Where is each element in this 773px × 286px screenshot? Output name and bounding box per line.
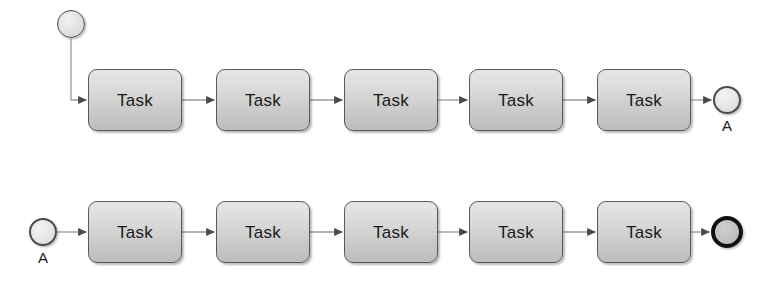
flow-start-to-task1 — [71, 39, 87, 100]
task-row1-4[interactable]: Task — [469, 69, 563, 131]
task-label: Task — [498, 224, 534, 241]
task-label: Task — [498, 92, 534, 109]
link-catch-event-a-label: A — [23, 250, 63, 265]
task-row1-5[interactable]: Task — [597, 69, 691, 131]
task-row2-1[interactable]: Task — [88, 201, 182, 263]
end-event[interactable] — [711, 216, 743, 248]
start-event[interactable] — [57, 10, 85, 38]
task-label: Task — [626, 224, 662, 241]
task-row2-2[interactable]: Task — [216, 201, 310, 263]
task-row1-3[interactable]: Task — [344, 69, 438, 131]
task-row2-3[interactable]: Task — [344, 201, 438, 263]
link-throw-event-a-label: A — [707, 118, 747, 133]
task-row2-4[interactable]: Task — [469, 201, 563, 263]
task-row1-1[interactable]: Task — [88, 69, 182, 131]
task-row2-5[interactable]: Task — [597, 201, 691, 263]
bpmn-diagram-canvas: Task Task Task Task Task A A Task Task T… — [0, 0, 773, 286]
link-throw-event-a[interactable] — [713, 86, 741, 114]
task-label: Task — [373, 92, 409, 109]
task-label: Task — [245, 92, 281, 109]
task-label: Task — [117, 92, 153, 109]
task-label: Task — [245, 224, 281, 241]
task-row1-2[interactable]: Task — [216, 69, 310, 131]
link-catch-event-a[interactable] — [29, 218, 57, 246]
task-label: Task — [117, 224, 153, 241]
task-label: Task — [626, 92, 662, 109]
task-label: Task — [373, 224, 409, 241]
